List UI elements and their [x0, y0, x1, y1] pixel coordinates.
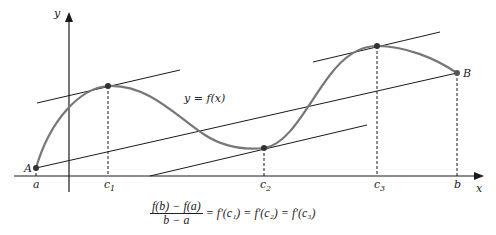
formula-numerator: f(b) − f(a) — [150, 200, 203, 214]
tick-label-b: b — [454, 178, 461, 191]
mvt-formula: f(b) − f(a) b − a = f′(c₁) = f′(c₂) = f′… — [150, 200, 315, 227]
formula-denominator: b − a — [163, 214, 189, 227]
y-axis-arrow-icon — [65, 12, 73, 22]
tick-label-c3-sub: 3 — [380, 184, 385, 193]
label-B: B — [462, 67, 471, 80]
function-curve — [36, 46, 457, 168]
tangent-line-c2 — [150, 125, 367, 176]
tick-label-c2-sub: 2 — [265, 184, 271, 193]
x-axis-label: x — [476, 182, 483, 195]
point-c3 — [374, 43, 380, 49]
tick-label-c1-sub: 1 — [110, 184, 115, 193]
y-axis-label: y — [53, 7, 61, 20]
tick-label-a: a — [33, 178, 40, 191]
point-B — [454, 70, 460, 76]
x-axis-arrow-icon — [474, 172, 484, 180]
point-c2 — [261, 145, 267, 151]
mvt-diagram: y x A B y = f(x) a c 1 c 2 c 3 b f(b) − … — [0, 0, 496, 235]
formula-fraction: f(b) − f(a) b − a — [150, 200, 203, 227]
label-A: A — [23, 162, 32, 175]
point-A — [33, 165, 39, 171]
formula-rhs: = f′(c₁) = f′(c₂) = f′(c₃) — [206, 206, 316, 221]
curve-label: y = f(x) — [183, 92, 225, 105]
point-c1 — [105, 83, 111, 89]
